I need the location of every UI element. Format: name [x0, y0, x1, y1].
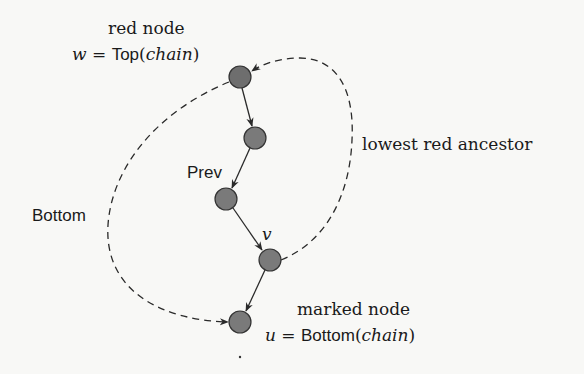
stray-dot	[239, 356, 241, 358]
top-paren-close: )	[193, 44, 200, 64]
marked-node-label: marked node	[297, 301, 410, 318]
bot-paren-open: (	[355, 325, 362, 345]
diagram-canvas: red node w = Top(chain) lowest red ances…	[0, 0, 584, 374]
bot-eq: =	[276, 325, 301, 345]
bottom-label: Bottom	[32, 207, 86, 224]
edge-n3-n4	[233, 208, 262, 250]
bot-fn: Bottom	[301, 326, 355, 345]
top-arg: chain	[146, 44, 193, 64]
edge-n2-n3	[232, 148, 250, 188]
top-eq: =	[87, 44, 112, 64]
node-prev	[215, 188, 237, 210]
top-lhs: w	[72, 44, 87, 64]
node-v	[259, 249, 281, 271]
red-node-label: red node	[108, 20, 185, 37]
top-equation: w = Top(chain)	[72, 46, 199, 63]
bottom-edge	[108, 82, 229, 322]
node-chain	[244, 127, 266, 149]
prev-label: Prev	[187, 164, 222, 181]
node-red-top	[229, 66, 251, 88]
v-label: v	[262, 226, 272, 243]
top-paren-open: (	[139, 44, 146, 64]
node-marked-bottom	[229, 311, 251, 333]
bottom-equation: u = Bottom(chain)	[265, 327, 415, 344]
bot-arg: chain	[362, 325, 409, 345]
bot-paren-close: )	[409, 325, 416, 345]
top-fn: Top	[112, 45, 139, 64]
edge-n4-n5	[246, 270, 265, 311]
lowest-red-ancestor-label: lowest red ancestor	[362, 136, 532, 153]
edge-n1-n2	[242, 88, 252, 126]
bot-lhs: u	[265, 325, 276, 345]
